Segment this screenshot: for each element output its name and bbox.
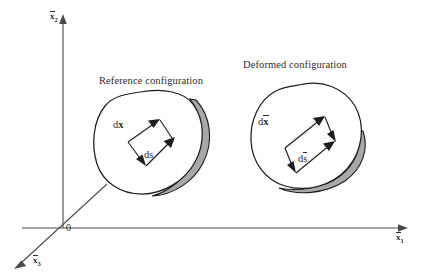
deformed-dsbar-label: ds	[298, 152, 307, 165]
origin-label: 0	[66, 223, 71, 233]
x2-axis-base: x	[50, 11, 55, 21]
reference-ds-label: ds	[144, 150, 153, 161]
reference-body-group	[94, 91, 210, 197]
reference-ds-symbol: s	[149, 149, 153, 160]
x3-axis-arrowhead	[14, 261, 26, 269]
reference-dx-label: dx	[113, 120, 124, 131]
reference-dx-symbol: x	[118, 119, 123, 130]
x2-axis-label: x2	[50, 11, 58, 23]
x3-axis-line	[21, 184, 107, 263]
figure-canvas: Reference configuration Deformed configu…	[0, 0, 428, 276]
x2-axis-arrowhead	[59, 14, 67, 24]
x3-axis-label: x3	[33, 255, 41, 267]
deformed-dxbar-label: dx	[258, 115, 269, 128]
diagram-svg	[0, 0, 428, 276]
deformed-dxbar-symbol: x	[263, 115, 268, 127]
x1-axis-arrowhead	[398, 224, 408, 232]
x1-axis-base: x	[396, 232, 401, 242]
deformed-body-group	[251, 83, 365, 193]
x1-axis-label: x1	[396, 232, 404, 244]
x3-axis-base: x	[33, 255, 38, 265]
deformed-configuration-caption: Deformed configuration	[243, 60, 347, 71]
reference-configuration-caption: Reference configuration	[99, 76, 203, 87]
deformed-dsbar-symbol: s	[303, 152, 307, 164]
